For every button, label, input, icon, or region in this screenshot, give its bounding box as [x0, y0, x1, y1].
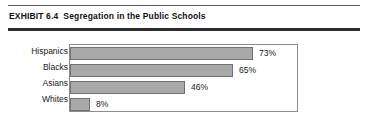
bar-whites [70, 98, 90, 111]
bar-row-hispanics: 73% [70, 46, 297, 62]
plot-area: 73% 65% 46% 8% [69, 44, 298, 112]
category-label-whites: Whites [0, 91, 68, 107]
header-rule-bottom [8, 28, 360, 31]
bar-chart: Hispanics Blacks Asians Whites 73% 65% 4… [0, 38, 372, 118]
header-rule-top [8, 5, 360, 6]
exhibit-number: EXHIBIT 6.4 [9, 11, 58, 21]
category-label-hispanics: Hispanics [0, 43, 68, 59]
exhibit-figure: EXHIBIT 6.4Segregation in the Public Sch… [0, 0, 372, 125]
bar-row-blacks: 65% [70, 63, 297, 79]
bar-value-hispanics: 73% [259, 46, 276, 61]
bar-asians [70, 81, 185, 94]
bar-hispanics [70, 47, 253, 60]
bar-row-asians: 46% [70, 80, 297, 96]
category-label-asians: Asians [0, 75, 68, 91]
exhibit-title: EXHIBIT 6.4Segregation in the Public Sch… [9, 11, 206, 21]
bar-value-blacks: 65% [239, 63, 256, 78]
exhibit-title-text: Segregation in the Public Schools [63, 11, 205, 21]
category-axis-labels: Hispanics Blacks Asians Whites [0, 43, 68, 107]
category-label-blacks: Blacks [0, 59, 68, 75]
bar-rows: 73% 65% 46% 8% [70, 45, 297, 111]
bar-row-whites: 8% [70, 97, 297, 113]
bar-value-whites: 8% [96, 97, 108, 112]
bar-value-asians: 46% [191, 80, 208, 95]
bar-blacks [70, 64, 233, 77]
